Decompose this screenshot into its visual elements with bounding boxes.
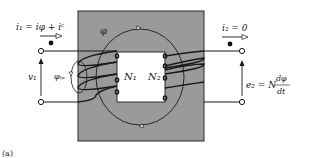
flux-label: φ	[100, 25, 107, 36]
primary-terminal-top[interactable]	[38, 48, 43, 53]
secondary-terminal-top[interactable]	[239, 48, 244, 53]
primary-polarity-dot-icon	[49, 41, 54, 46]
secondary-turns-label: N₂	[147, 71, 161, 82]
primary-voltage-arrow-icon	[39, 58, 44, 96]
secondary-voltage-arrow-icon	[240, 60, 245, 96]
secondary-current-arrow-icon	[222, 35, 248, 40]
secondary-terminal-bottom[interactable]	[239, 99, 244, 104]
emf-denominator: dt	[277, 87, 286, 96]
leakage-flux-label: φₗₚ	[54, 72, 66, 81]
primary-current-label: i₁ = iφ + iᶜ	[16, 22, 64, 32]
transformer-diagram: i₁ = iφ + iᶜ i₂ = 0 φ v₁ φₗₚ N₁ N₂ e₂ = …	[0, 0, 312, 158]
emf-equation-lhs: e₂ = N	[246, 80, 277, 90]
secondary-polarity-dot-icon	[228, 42, 233, 47]
primary-voltage-label: v₁	[28, 72, 37, 82]
figure-label: (a)	[2, 149, 13, 158]
emf-numerator: dφ	[276, 74, 287, 83]
leakage-arrow-icon	[69, 72, 73, 76]
primary-current-arrow-icon	[40, 34, 62, 39]
primary-turns-label: N₁	[123, 71, 137, 82]
secondary-current-label: i₂ = 0	[222, 23, 248, 33]
primary-terminal-bottom[interactable]	[38, 99, 43, 104]
